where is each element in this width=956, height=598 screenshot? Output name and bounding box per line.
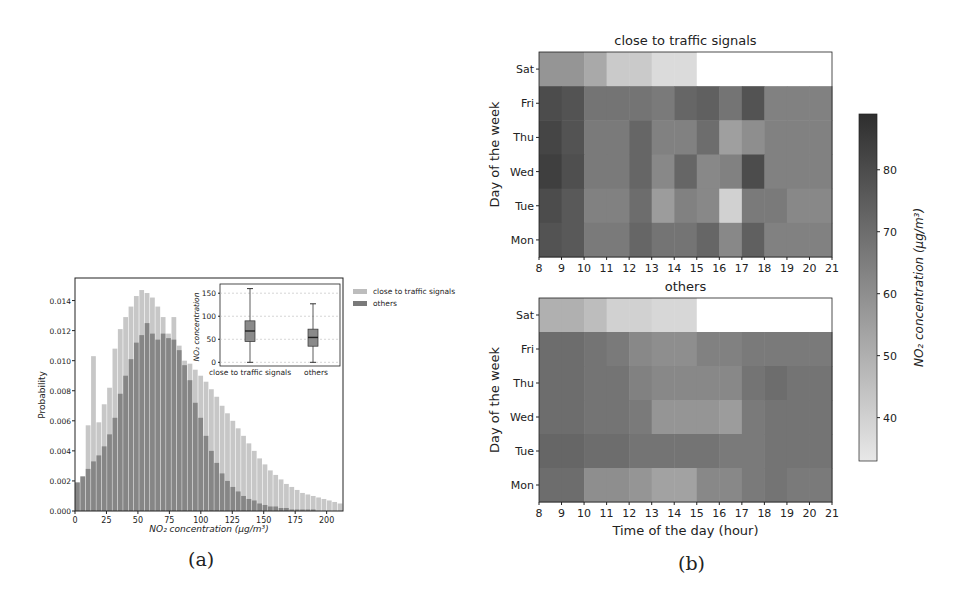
heatmap-cell	[652, 400, 675, 435]
histogram-bar	[80, 476, 85, 511]
histogram-bar	[252, 500, 257, 511]
histogram-bar	[338, 503, 343, 511]
svg-text:80: 80	[883, 164, 897, 177]
heatmap-cell	[742, 52, 765, 87]
histogram-bar	[273, 506, 278, 511]
histogram-bar	[247, 499, 252, 511]
svg-text:15: 15	[690, 262, 704, 275]
heatmap-cell	[607, 120, 630, 155]
histogram-bar	[327, 500, 332, 511]
svg-text:Tue: Tue	[514, 445, 534, 458]
svg-text:12: 12	[622, 507, 636, 520]
heatmap-cell	[809, 366, 832, 401]
svg-text:0.008: 0.008	[50, 387, 72, 396]
heatmap-cell	[697, 86, 720, 121]
histogram-bar	[209, 451, 214, 511]
svg-text:0: 0	[72, 516, 77, 525]
heatmap-cell	[697, 400, 720, 435]
heatmap-cell	[652, 189, 675, 224]
heatmap-cell	[607, 155, 630, 190]
heatmap-cell	[539, 86, 562, 121]
heatmap-cell	[584, 52, 607, 87]
heatmap-cell	[764, 52, 787, 87]
heatmap-cell	[787, 223, 810, 258]
heatmap-cell	[742, 298, 765, 333]
heatmap-cell	[809, 155, 832, 190]
heatmap-cell	[764, 366, 787, 401]
heatmap-cell	[539, 468, 562, 503]
heatmap-cell	[607, 468, 630, 503]
legend-label-others: others	[373, 299, 397, 308]
heatmap-cell	[629, 120, 652, 155]
heatmap-cell	[787, 366, 810, 401]
svg-text:0.006: 0.006	[50, 417, 72, 426]
heatmap-others: othersSatFriThuWedTueMon8910111213141516…	[487, 279, 839, 538]
heatmap-cell	[584, 223, 607, 258]
svg-text:Mon: Mon	[511, 234, 534, 247]
heatmap-cell	[674, 189, 697, 224]
legend-swatch-close	[353, 289, 367, 294]
heatmap-cell	[607, 86, 630, 121]
heatmap-cell	[809, 468, 832, 503]
histogram-bar	[182, 365, 187, 511]
heatmap-cell	[697, 298, 720, 333]
svg-text:11: 11	[600, 262, 614, 275]
heatmap-cell	[629, 400, 652, 435]
svg-text:0: 0	[211, 358, 216, 367]
svg-text:8: 8	[536, 262, 543, 275]
svg-text:50: 50	[133, 516, 143, 525]
svg-text:Wed: Wed	[510, 411, 534, 424]
histogram-bar	[198, 418, 203, 511]
heatmap-cell	[719, 468, 742, 503]
histogram-bar	[139, 335, 144, 511]
histogram-bar	[300, 493, 305, 511]
heatmap-cell	[809, 298, 832, 333]
heatmap-cell	[764, 86, 787, 121]
histogram-bar	[188, 380, 193, 511]
histogram-bar	[161, 334, 166, 511]
heatmap-cell	[629, 86, 652, 121]
heatmap-cell	[697, 52, 720, 87]
svg-text:16: 16	[712, 507, 726, 520]
svg-text:14: 14	[667, 262, 681, 275]
heatmap-cell	[562, 86, 585, 121]
heatmap-cell	[787, 400, 810, 435]
heatmap-cell	[539, 52, 562, 87]
caption-b: (b)	[678, 552, 705, 574]
heatmap-cell	[764, 298, 787, 333]
heatmap-cell	[629, 332, 652, 367]
heatmap-cell	[539, 120, 562, 155]
histogram-bar	[263, 464, 268, 511]
histogram-bar	[273, 475, 278, 511]
heatmap-cell	[787, 298, 810, 333]
heatmap-cell	[674, 434, 697, 469]
heatmap-cell	[607, 332, 630, 367]
heatmap-cell	[539, 189, 562, 224]
heatmap-cell	[674, 366, 697, 401]
histogram-bar	[155, 340, 160, 511]
svg-text:19: 19	[780, 262, 794, 275]
heatmap-cell	[697, 332, 720, 367]
heatmap-cell	[607, 52, 630, 87]
heatmap-cell	[809, 400, 832, 435]
heatmap-cell	[719, 332, 742, 367]
svg-text:15: 15	[690, 507, 704, 520]
svg-text:Sat: Sat	[516, 309, 535, 322]
heatmap-cell	[652, 52, 675, 87]
histogram-bar	[295, 490, 300, 511]
heatmap-cell	[562, 155, 585, 190]
heatmap-y-label: Day of the week	[487, 346, 502, 453]
heatmap-cell	[562, 52, 585, 87]
heatmap-cell	[629, 155, 652, 190]
svg-text:0.010: 0.010	[50, 357, 72, 366]
histogram-x-label: NO₂ concentration (μg/m³)	[149, 524, 268, 534]
heatmap-cell	[809, 434, 832, 469]
histogram-bar	[311, 496, 316, 511]
heatmap-cell	[562, 400, 585, 435]
heatmap-cell	[584, 332, 607, 367]
legend-swatch-others	[353, 301, 367, 306]
heatmap-cell	[652, 366, 675, 401]
svg-text:16: 16	[712, 262, 726, 275]
heatmap-cell	[584, 366, 607, 401]
histogram-y-ticks: 0.0000.0020.0040.0060.0080.0100.0120.014	[50, 297, 75, 516]
